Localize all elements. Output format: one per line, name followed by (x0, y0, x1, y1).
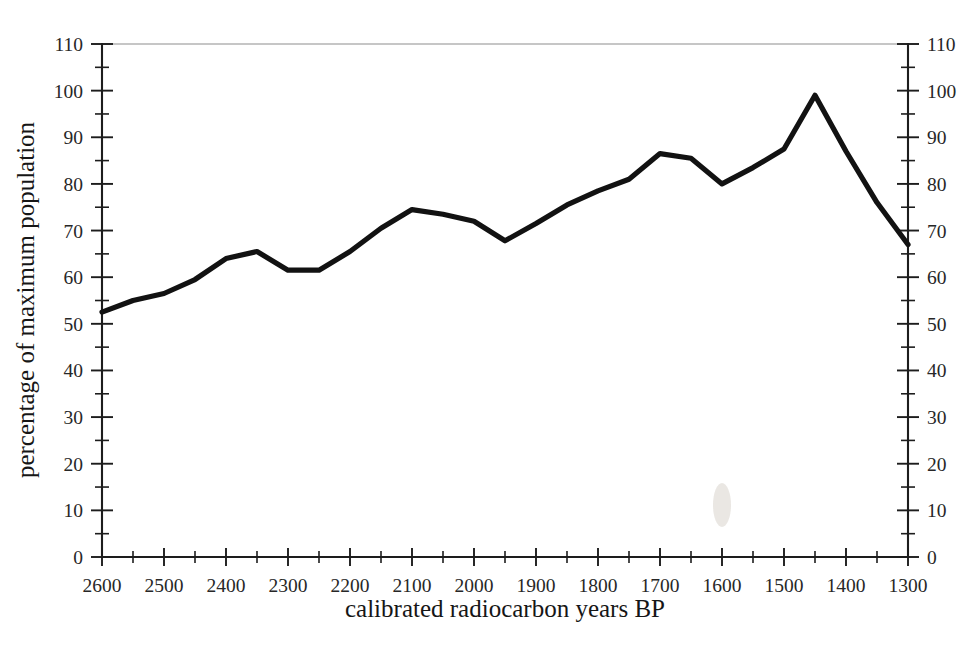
y-tick-label-right: 90 (927, 127, 947, 148)
x-tick-label: 1600 (703, 575, 742, 596)
data-series-line (102, 95, 908, 312)
scan-artifact (713, 483, 731, 527)
tick-labels-layer: 0010102020303040405050606070708080909010… (54, 34, 957, 596)
y-tick-label-left: 100 (54, 81, 83, 102)
y-tick-label-right: 20 (927, 454, 947, 475)
y-tick-label-left: 30 (64, 407, 84, 428)
y-tick-label-left: 50 (64, 314, 84, 335)
y-tick-label-right: 70 (927, 221, 947, 242)
y-tick-label-right: 30 (927, 407, 947, 428)
y-tick-label-right: 10 (927, 500, 947, 521)
y-tick-label-right: 80 (927, 174, 947, 195)
y-tick-label-left: 0 (73, 547, 83, 568)
x-tick-label: 2300 (269, 575, 308, 596)
y-tick-label-left: 60 (64, 267, 84, 288)
x-tick-label: 2500 (145, 575, 184, 596)
x-tick-label: 1400 (827, 575, 866, 596)
y-tick-label-left: 70 (64, 221, 84, 242)
x-tick-label: 1700 (641, 575, 680, 596)
x-tick-label: 2100 (393, 575, 432, 596)
x-tick-label: 1500 (765, 575, 804, 596)
figure-container: 0010102020303040405050606070708080909010… (0, 0, 978, 648)
ticks-layer (91, 44, 919, 566)
y-tick-label-left: 40 (64, 360, 84, 381)
x-tick-label: 1300 (889, 575, 928, 596)
y-tick-label-right: 60 (927, 267, 947, 288)
line-chart: 0010102020303040405050606070708080909010… (0, 0, 978, 648)
y-tick-label-right: 0 (927, 547, 937, 568)
x-tick-label: 2000 (455, 575, 494, 596)
y-tick-label-right: 100 (927, 81, 956, 102)
x-tick-label: 2600 (83, 575, 122, 596)
y-tick-label-left: 20 (64, 454, 84, 475)
x-tick-label: 1800 (579, 575, 618, 596)
y-tick-label-right: 40 (927, 360, 947, 381)
y-tick-label-left: 90 (64, 127, 84, 148)
x-tick-label: 2400 (207, 575, 246, 596)
y-axis-title: percentage of maximum population (12, 121, 39, 478)
y-tick-label-left: 110 (54, 34, 83, 55)
y-tick-label-right: 50 (927, 314, 947, 335)
y-tick-label-left: 10 (64, 500, 84, 521)
y-tick-label-left: 80 (64, 174, 84, 195)
y-tick-label-right: 110 (927, 34, 956, 55)
x-axis-title: calibrated radiocarbon years BP (345, 595, 665, 622)
plot-frame (102, 44, 908, 557)
x-tick-label: 1900 (517, 575, 556, 596)
x-tick-label: 2200 (331, 575, 370, 596)
